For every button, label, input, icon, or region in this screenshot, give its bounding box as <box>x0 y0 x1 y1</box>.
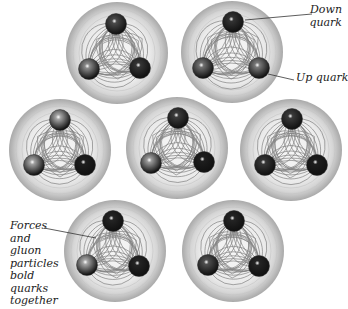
quark-ball <box>77 255 98 276</box>
particle <box>9 99 111 201</box>
quark-ball <box>223 12 244 33</box>
forces-label: Forces and gluon particles bold quarks t… <box>10 220 59 308</box>
quark-ball <box>103 211 124 232</box>
particle <box>182 200 284 302</box>
particle <box>64 200 166 302</box>
quark-ball <box>194 152 215 173</box>
forces-label-line: together <box>10 295 59 308</box>
quark-ball <box>282 109 303 130</box>
forces-label-line: gluon <box>10 245 59 258</box>
up-quark-label-text: Up quark <box>296 71 348 84</box>
up-quark-label: Up quark <box>296 72 348 85</box>
quark-ball <box>255 155 276 176</box>
quark-ball <box>198 255 219 276</box>
particle <box>181 1 283 103</box>
down-quark-label-line2: quark <box>282 17 342 30</box>
quark-ball <box>129 256 150 277</box>
quark-ball <box>307 155 328 176</box>
quark-ball <box>50 110 71 131</box>
forces-label-line: bold <box>10 270 59 283</box>
down-quark-label: Down quark <box>282 4 342 29</box>
quark-ball <box>224 211 245 232</box>
quark-ball <box>130 58 151 79</box>
quark-ball <box>79 59 100 80</box>
quark-ball <box>141 153 162 174</box>
quark-ball <box>168 108 189 129</box>
quark-ball <box>249 58 270 79</box>
quark-ball <box>249 256 270 277</box>
quark-ball <box>106 14 127 35</box>
forces-label-line: Forces <box>10 220 59 233</box>
particle <box>240 99 342 201</box>
quark-ball <box>193 58 214 79</box>
down-quark-label-line1: Down <box>282 4 342 17</box>
particle <box>126 97 228 199</box>
quark-ball <box>24 155 45 176</box>
quark-ball <box>75 155 96 176</box>
particle <box>66 2 168 104</box>
